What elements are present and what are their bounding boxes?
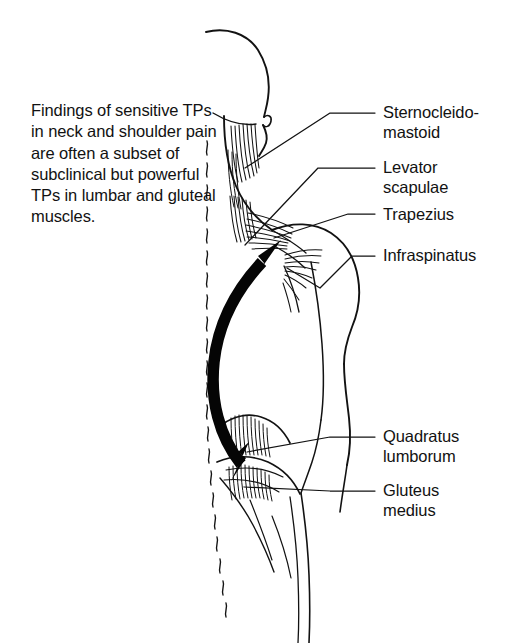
caption-text: Findings of sensitive TPs in neck and sh… <box>31 100 221 228</box>
body-outline <box>224 116 359 512</box>
double-headed-arrow <box>213 240 281 481</box>
label-levator-scapulae: Levator scapulae <box>383 158 448 197</box>
label-quadratus-lumborum: Quadratus lumborum <box>383 427 459 466</box>
label-sternocleidomastoid: Sternocleido- mastoid <box>383 103 479 142</box>
label-infraspinatus: Infraspinatus <box>383 246 476 266</box>
label-gluteus-medius: Gluteus medius <box>383 481 439 520</box>
label-trapezius: Trapezius <box>383 205 454 225</box>
levator-scapulae-fibers <box>230 196 256 242</box>
sternocleidomastoid-fibers <box>231 124 259 182</box>
anatomy-illustration <box>0 0 529 643</box>
anatomical-figure: Findings of sensitive TPs in neck and sh… <box>0 0 529 643</box>
leg-outline <box>250 493 310 643</box>
infraspinatus-fibers <box>283 250 322 312</box>
